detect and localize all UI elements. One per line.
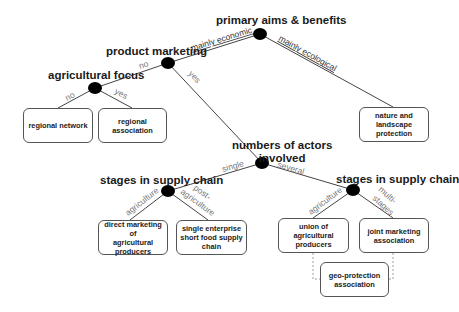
edge-label-pm-yes: yes	[187, 69, 203, 85]
edge-label-af-no: no	[63, 89, 76, 102]
outcome-joint-marketing: joint marketing association	[359, 218, 429, 253]
node-title-stages-right: stages in supply chain	[336, 173, 459, 186]
outcome-regional-network: regional network	[23, 108, 93, 143]
node-title-numbers-of-actors: numbers of actors involved	[232, 139, 332, 165]
node-title-product-marketing: product marketing	[106, 45, 207, 58]
node-title-primary-aims: primary aims & benefits	[216, 14, 346, 27]
outcome-geo-protection: geo-protection association	[320, 262, 389, 297]
node-primary-aims	[253, 28, 267, 40]
node-product-marketing	[161, 57, 175, 69]
outcome-union: union of agricultural producers	[278, 218, 349, 253]
outcome-nature-landscape: nature and landscape protection	[359, 107, 429, 142]
node-agricultural-focus	[88, 82, 102, 94]
outcome-single-enterprise: single enterprise short food supply chai…	[176, 220, 247, 255]
outcome-direct-marketing: direct marketing of agricultural produce…	[98, 220, 168, 255]
edge-label-mainly-ecological: mainly ecological	[277, 33, 339, 73]
outcome-regional-association: regional association	[98, 108, 167, 143]
node-title-stages-left: stages in supply chain	[100, 174, 223, 187]
node-title-numbers-line1: numbers of actors	[232, 139, 332, 152]
node-title-numbers-line2: involved	[232, 152, 332, 165]
node-title-agricultural-focus: agricultural focus	[48, 69, 145, 82]
